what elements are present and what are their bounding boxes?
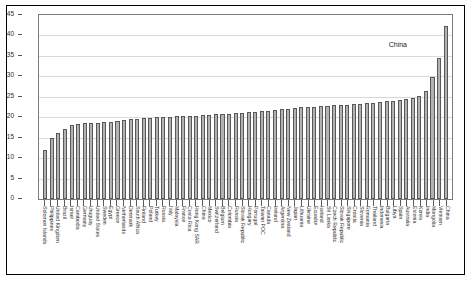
x-label-slot: Slovenia <box>358 206 365 272</box>
bar <box>181 116 185 199</box>
bar-chart-figure: 051015202530354045 Solomon IslandsPhilip… <box>0 0 472 281</box>
x-axis-labels: Solomon IslandsPhilippinesUnited Kingdom… <box>38 206 453 272</box>
y-tick-label: 10 <box>7 154 14 161</box>
x-label-slot: Ireland <box>272 206 279 272</box>
bar <box>148 118 152 199</box>
x-label-slot: Malaysia <box>173 206 180 272</box>
x-tick-label: Switzerland <box>213 206 218 233</box>
x-tick-label: Mongolia <box>431 206 436 227</box>
x-label-slot: Sweden <box>100 206 107 272</box>
x-tick-label: Greece <box>114 206 119 223</box>
x-tick-label: Slovenia <box>358 206 363 226</box>
x-label-slot: Solomon Islands <box>41 206 48 272</box>
x-tick-label: Colombia <box>226 206 231 228</box>
x-label-slot: Sri Lanka <box>325 206 332 272</box>
bar <box>102 122 106 199</box>
bar <box>398 100 402 199</box>
bar <box>286 109 290 199</box>
x-tick-label: Japan <box>292 206 297 220</box>
x-label-slot: Colombia <box>226 206 233 272</box>
bar <box>444 26 448 199</box>
y-tick-mark <box>18 137 22 138</box>
y-tick-label: 35 <box>7 52 14 59</box>
y-axis: 051015202530354045 <box>0 14 38 200</box>
x-tick-label: Korea <box>417 206 422 220</box>
x-tick-label: Libya <box>391 206 396 218</box>
y-tick-label: 0 <box>10 195 14 202</box>
x-tick-label: Thailand <box>371 206 376 226</box>
x-tick-label: France <box>180 206 185 222</box>
x-label-slot: Russia <box>232 206 239 272</box>
x-label-slot: Portugal <box>252 206 259 272</box>
x-tick-label: Germany <box>81 206 86 227</box>
x-label-slot: Netherlands <box>120 206 127 272</box>
x-label-slot: Spain <box>397 206 404 272</box>
x-label-slot: Denmark <box>127 206 134 272</box>
y-tick-mark <box>18 75 22 76</box>
bar <box>378 102 382 199</box>
bar <box>299 107 303 199</box>
x-label-slot: Singapore <box>344 206 351 272</box>
x-label-slot: United States <box>94 206 101 272</box>
x-label-slot: Ecuador <box>311 206 318 272</box>
bar <box>194 116 198 199</box>
bar <box>155 117 159 199</box>
x-tick-label: Poland <box>147 206 152 222</box>
bar <box>76 124 80 199</box>
bar <box>234 113 238 199</box>
x-label-slot: Libya <box>390 206 397 272</box>
bar <box>161 117 165 199</box>
x-tick-label: Lithuania <box>299 206 304 227</box>
x-label-slot: Australia <box>404 206 411 272</box>
x-tick-label: Malaysia <box>173 206 178 226</box>
x-label-slot: Hungary <box>245 206 252 272</box>
x-label-slot: Iceland <box>318 206 325 272</box>
x-tick-label: Russia <box>233 206 238 222</box>
bar <box>266 111 270 199</box>
x-tick-label: China <box>444 206 449 220</box>
bar <box>260 111 264 199</box>
bar <box>129 119 133 199</box>
x-tick-label: New Zealand <box>286 206 291 237</box>
bar <box>352 104 356 199</box>
y-tick-label: 45 <box>7 11 14 18</box>
y-tick-label: 40 <box>7 31 14 38</box>
x-tick-label: Cambodia <box>75 206 80 230</box>
bar <box>430 77 434 199</box>
x-label-slot: Greece <box>114 206 121 272</box>
bar <box>122 120 126 199</box>
bar <box>339 105 343 199</box>
bar <box>345 105 349 199</box>
x-tick-label: Costa Rica <box>187 206 192 231</box>
bar <box>332 105 336 199</box>
x-label-slot: Croatia <box>351 206 358 272</box>
x-label-slot: Slovak Republic <box>338 206 345 272</box>
bar <box>424 91 428 199</box>
y-tick-label: 5 <box>10 174 14 181</box>
x-tick-label: Finland <box>141 206 146 223</box>
x-tick-label: Croatia <box>352 206 357 223</box>
x-label-slot: India <box>423 206 430 272</box>
bar <box>175 116 179 199</box>
x-label-slot: Ukraine <box>305 206 312 272</box>
bar <box>306 107 310 199</box>
bar <box>253 112 257 199</box>
bar <box>115 121 119 199</box>
x-label-slot: South Africa <box>133 206 140 272</box>
bar <box>325 106 329 199</box>
x-tick-label: Slovak Republic <box>338 206 343 243</box>
x-label-slot: Uruguay <box>87 206 94 272</box>
x-label-slot: Bulgaria <box>384 206 391 272</box>
x-tick-label: Vietnam <box>437 206 442 225</box>
x-tick-label: Sweden <box>101 206 106 225</box>
x-tick-label: Romania <box>365 206 370 227</box>
bar <box>227 114 231 199</box>
x-tick-label: Philippines <box>48 206 53 231</box>
x-tick-label: Belgium <box>220 206 225 225</box>
bar <box>43 150 47 199</box>
x-tick-label: Canada <box>266 206 271 224</box>
x-tick-label: Ireland <box>272 206 277 222</box>
x-label-slot: Japan <box>292 206 299 272</box>
bar <box>280 109 284 199</box>
bar <box>135 119 139 199</box>
